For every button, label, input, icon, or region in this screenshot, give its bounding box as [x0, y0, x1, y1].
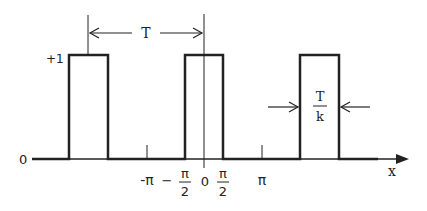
pulse-train-diagram: T T k +1 0 -π − π 2 0 π 2 π x [0, 0, 427, 211]
y-label-plus-one: +1 [46, 52, 64, 66]
period-label: T [141, 25, 151, 41]
waveform [32, 55, 378, 159]
width-label-denominator: k [316, 109, 324, 124]
tick-label-zero: 0 [201, 174, 209, 189]
tick-label-neg-half-pi-den: 2 [181, 184, 189, 199]
width-label-numerator: T [316, 89, 325, 104]
tick-label-pos-half-pi-num: π [219, 166, 227, 181]
x-axis-label: x [388, 163, 396, 179]
y-label-zero: 0 [19, 152, 27, 167]
tick-label-pi: π [258, 172, 267, 188]
tick-label-pos-half-pi-den: 2 [219, 184, 227, 199]
tick-label-neg-half-pi-num: π [181, 166, 189, 181]
tick-label-neg-half-pi-sign: − [162, 173, 173, 188]
x-axis-arrowhead-icon [396, 154, 409, 164]
tick-label-neg-pi: -π [140, 172, 154, 188]
